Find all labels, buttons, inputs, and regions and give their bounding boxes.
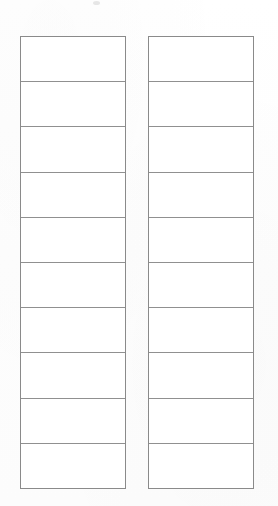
table-row[interactable] [149, 82, 253, 127]
table-row[interactable] [21, 173, 125, 218]
table-row[interactable] [21, 37, 125, 82]
left-table-grid [20, 36, 126, 489]
table-row[interactable] [149, 444, 253, 488]
table-row[interactable] [149, 308, 253, 353]
table-row[interactable] [21, 444, 125, 488]
table-row[interactable] [21, 127, 125, 172]
table-row[interactable] [149, 218, 253, 263]
table-row[interactable] [21, 353, 125, 398]
table-row[interactable] [21, 263, 125, 308]
document-page [0, 0, 278, 506]
table-row[interactable] [149, 173, 253, 218]
table-row[interactable] [21, 82, 125, 127]
table-row[interactable] [21, 308, 125, 353]
table-row[interactable] [149, 353, 253, 398]
table-row[interactable] [149, 127, 253, 172]
table-row[interactable] [149, 399, 253, 444]
table-row[interactable] [149, 37, 253, 82]
right-table-grid [148, 36, 254, 489]
table-row[interactable] [21, 399, 125, 444]
table-row[interactable] [21, 218, 125, 263]
scan-smudge-mark [93, 1, 100, 5]
table-row[interactable] [149, 263, 253, 308]
